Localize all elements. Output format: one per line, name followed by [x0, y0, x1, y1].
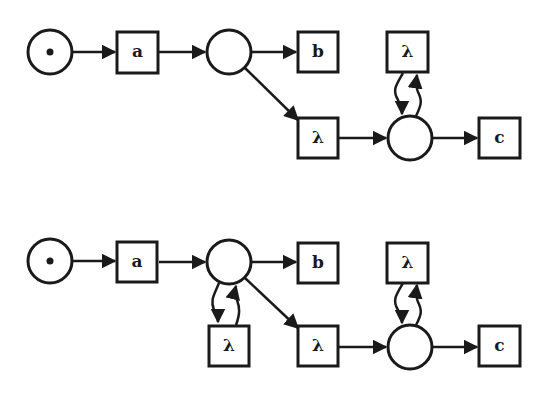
- transition-label: c: [494, 127, 504, 147]
- arc-lambda-loop-to-p3: [395, 73, 403, 114]
- arc-lambda-p2loop-to-p2: [235, 286, 239, 325]
- arc-p2-lambda: [245, 68, 298, 120]
- transition-label: a: [132, 41, 143, 61]
- arc-lambda-loop-to-p3: [395, 283, 403, 323]
- net-2: a b λ λ λ c: [28, 239, 520, 369]
- place-p2: [207, 240, 251, 284]
- place-p3: [388, 116, 432, 160]
- transition-a: a: [117, 242, 157, 282]
- transition-label: c: [494, 335, 504, 355]
- transition-label: b: [312, 252, 324, 272]
- petri-net-diagram: a b λ λ c: [0, 0, 542, 402]
- transition-lambda: λ: [298, 326, 338, 366]
- place-p2: [207, 30, 251, 74]
- arc-p3-to-lambda-loop: [416, 75, 421, 116]
- place-p3: [388, 325, 432, 369]
- transition-b: b: [298, 32, 338, 72]
- transition-a: a: [117, 32, 158, 73]
- arc-p3-to-lambda-loop: [416, 285, 421, 325]
- token: [47, 258, 54, 265]
- transition-c: c: [479, 118, 520, 158]
- transition-label: λ: [223, 335, 235, 355]
- transition-label: λ: [312, 127, 324, 147]
- transition-label: a: [131, 251, 142, 271]
- transition-label: b: [312, 41, 324, 61]
- transition-label: λ: [402, 41, 414, 61]
- transition-label: λ: [402, 252, 414, 272]
- transition-lambda-p2loop: λ: [209, 326, 249, 366]
- transition-c: c: [479, 326, 520, 366]
- transition-lambda-loop: λ: [387, 243, 428, 283]
- net-1: a b λ λ c: [28, 30, 520, 160]
- token: [47, 49, 54, 56]
- arc-p2-lambda: [245, 278, 298, 328]
- transition-b: b: [298, 243, 338, 283]
- arc-p2-to-lambda-p2loop: [212, 283, 219, 322]
- transition-lambda-loop: λ: [387, 32, 428, 72]
- transition-label: λ: [312, 335, 324, 355]
- transition-lambda: λ: [298, 118, 338, 158]
